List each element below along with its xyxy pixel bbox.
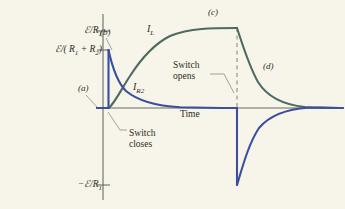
curve-resistor-current-recovery [237,108,343,185]
annotation-switch-opens-line1: Switch [173,60,199,71]
curve-inductor-current [97,28,237,108]
annotation-phase-a: (a) [78,84,89,93]
y-axis-label-neg-eps-over-r1: −ℰ/R1 [78,180,102,192]
curve-label-resistor-current: IR2 [133,82,144,95]
annotation-phase-b: (b) [100,28,111,37]
curve-label-inductor-current: IL [147,24,154,37]
annotation-switch-opens-line2: opens [173,71,199,82]
annotation-switch-closes: Switch closes [129,128,155,150]
annotation-phase-d: (d) [263,62,274,71]
annotation-phase-c: (c) [208,8,218,17]
leader-line-phase-b [106,38,112,50]
inductor-current-figure: ℰ/R1 ℰ/( R1 + R2) −ℰ/R1 IL IR2 (a) (b) (… [0,0,345,209]
y-axis-label-neg-eps-subscript: 1 [99,184,103,192]
chart-plot-area [0,0,345,209]
curve-label-ir2-subscript-2: 2 [141,87,145,95]
y-axis-label-eps-over-r1-text: ℰ/R [84,25,98,35]
curve-inductor-current-decay [237,28,343,108]
y-axis-label-eps-over-r1-plus-r2: ℰ/( R1 + R2) [55,45,102,57]
annotation-switch-opens: Switch opens [173,60,199,82]
y-axis-label-r1r2-prefix: ℰ/( R [55,44,75,54]
annotation-switch-closes-line2: closes [129,139,155,150]
leader-line-phase-a [86,95,97,107]
leader-line-switch-opens [210,74,234,93]
y-axis-label-neg-eps-text: −ℰ/R [78,179,99,189]
y-axis-label-r1r2-mid: + R [78,44,95,54]
leader-line-switch-closes [108,112,127,130]
curve-label-il-subscript: L [150,29,154,37]
annotation-switch-closes-line1: Switch [129,128,155,139]
y-axis-label-r1r2-post: ) [99,44,102,54]
x-axis-label-time: Time [180,110,200,120]
